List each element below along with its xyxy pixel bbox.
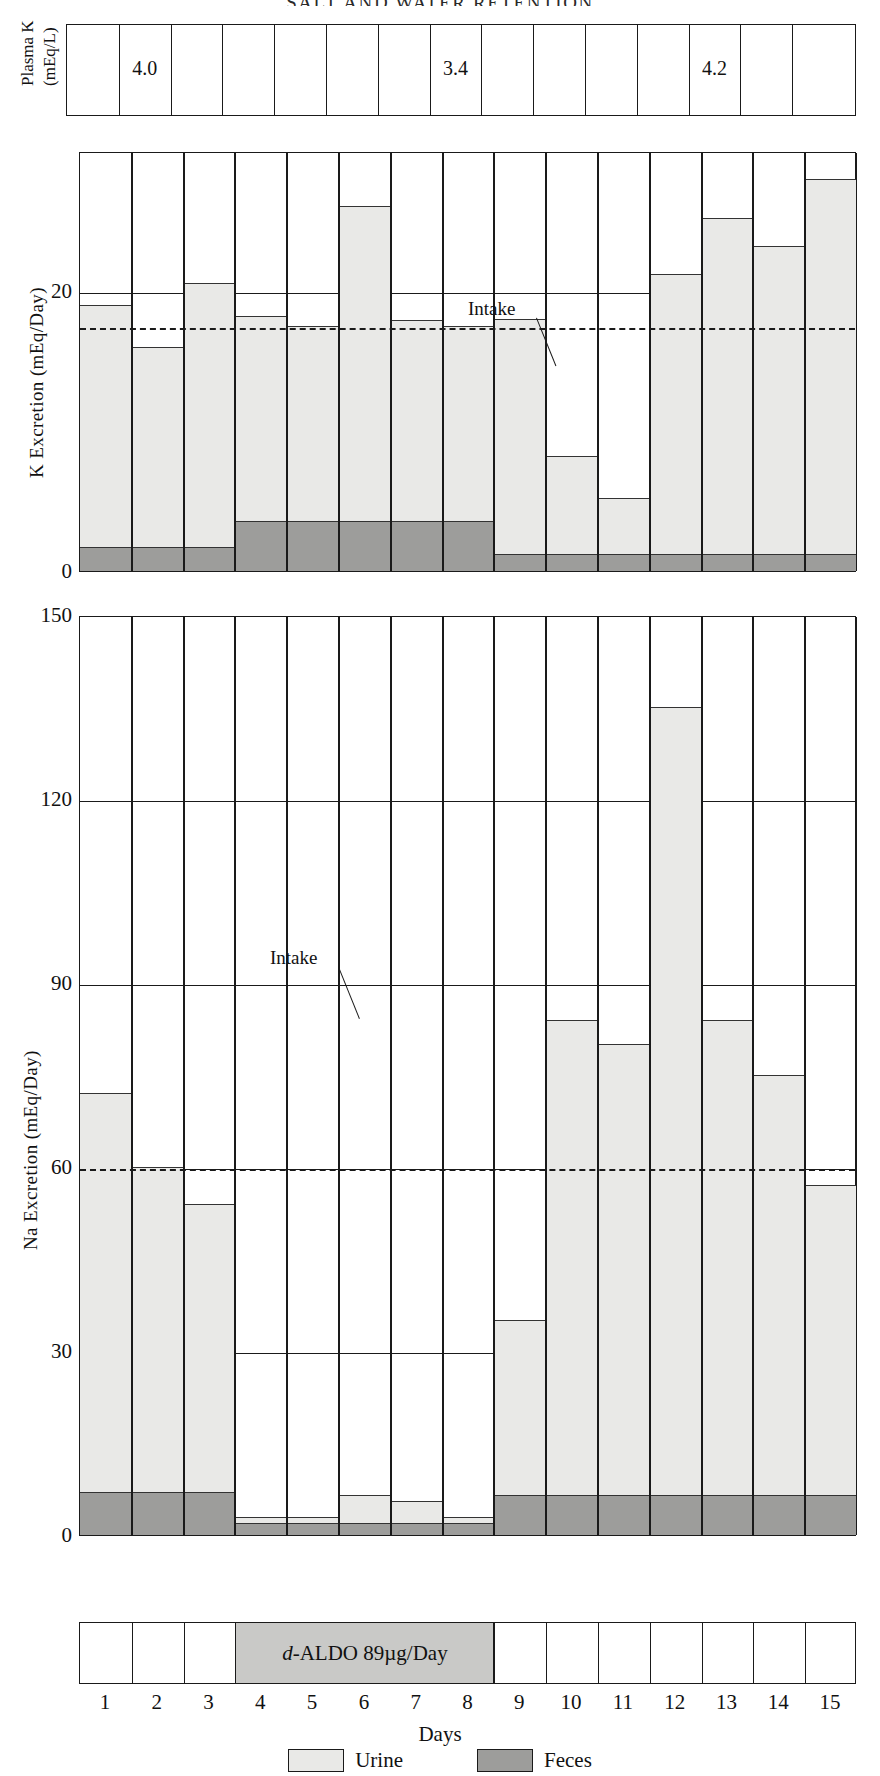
bar-column (753, 153, 805, 571)
y-axis-tick-label: 20 (12, 279, 72, 304)
bar-segment-feces (80, 1492, 131, 1535)
day-separator (753, 1623, 754, 1683)
bar-column (339, 153, 391, 571)
day-axis-label: 4 (234, 1690, 286, 1715)
day-separator (287, 617, 288, 1535)
x-axis-title: Days (0, 1722, 880, 1747)
day-axis-label: 5 (286, 1690, 338, 1715)
y-axis-tick-label: 0 (12, 1523, 72, 1548)
bar-segment-urine (753, 246, 804, 554)
bar-segment-feces (184, 1492, 235, 1535)
bar-segment-feces (235, 521, 286, 571)
day-separator (792, 25, 793, 115)
legend-swatch-urine (288, 1749, 344, 1772)
bar-segment-feces (650, 554, 701, 571)
bar-segment-urine (184, 1204, 235, 1492)
bar-segment-urine (494, 319, 545, 554)
bar-segment-feces (494, 554, 545, 571)
bar-segment-urine (443, 326, 494, 521)
bar-segment-feces (287, 521, 338, 571)
bar-segment-urine (80, 305, 131, 547)
bar-segment-urine (80, 1093, 131, 1492)
day-separator (702, 617, 703, 1535)
day-axis-label: 12 (649, 1690, 701, 1715)
bar-segment-feces (132, 1492, 183, 1535)
day-axis-label: 15 (804, 1690, 856, 1715)
day-separator (650, 1623, 651, 1683)
bar-segment-urine (235, 316, 286, 520)
bar-segment-feces (546, 554, 597, 571)
bar-segment-urine (805, 1185, 856, 1495)
bar-column (805, 153, 857, 571)
bar-column (287, 153, 339, 571)
bar-segment-feces (339, 521, 390, 571)
bar-column (443, 617, 495, 1535)
day-separator (274, 25, 275, 115)
d-aldo-label-rest: -ALDO 89µg/Day (293, 1641, 448, 1665)
day-separator (753, 153, 754, 571)
bar-segment-urine (598, 498, 649, 554)
day-separator (222, 25, 223, 115)
plasma-k-axis-label-line2: (mEq/L) (40, 27, 60, 86)
day-axis-label: 9 (493, 1690, 545, 1715)
day-axis-label: 11 (597, 1690, 649, 1715)
day-separator (494, 153, 495, 571)
y-axis-tick-label: 0 (12, 559, 72, 584)
bar-segment-urine (235, 1517, 286, 1523)
day-separator (702, 1623, 703, 1683)
day-separator (326, 25, 327, 115)
treatment-panel: d-ALDO 89µg/Day (79, 1622, 856, 1684)
bar-column (287, 617, 339, 1535)
bar-column (391, 153, 443, 571)
y-axis-tick-label: 60 (12, 1155, 72, 1180)
day-separator (805, 153, 806, 571)
bar-segment-urine (287, 326, 338, 521)
bar-segment-feces (287, 1523, 338, 1535)
bar-segment-feces (443, 521, 494, 571)
plasma-k-value: 4.2 (689, 57, 741, 80)
k-excretion-axis-label: K Excretion (mEq/Day) (26, 287, 48, 478)
bar-segment-urine (650, 274, 701, 554)
d-aldo-label-italic: d (282, 1641, 293, 1665)
bar-column (494, 617, 546, 1535)
k-excretion-panel: Intake (79, 152, 856, 572)
day-separator (132, 1623, 133, 1683)
bar-segment-feces (598, 1495, 649, 1535)
bar-column (494, 153, 546, 571)
y-axis-tick-label: 90 (12, 971, 72, 996)
day-separator (235, 617, 236, 1535)
day-separator (546, 153, 547, 571)
legend-item-urine: Urine (288, 1748, 403, 1773)
bar-segment-urine (546, 456, 597, 554)
bar-segment-urine (287, 1517, 338, 1523)
day-axis-label: 8 (442, 1690, 494, 1715)
day-separator (378, 25, 379, 115)
intake-annotation-label: Intake (468, 298, 515, 320)
day-separator (184, 153, 185, 571)
bar-column (598, 617, 650, 1535)
day-separator (339, 153, 340, 571)
legend-swatch-feces (477, 1749, 533, 1772)
day-separator (533, 25, 534, 115)
day-separator (132, 617, 133, 1535)
intake-annotation-label: Intake (270, 947, 317, 969)
bar-segment-urine (598, 1044, 649, 1495)
y-axis-tick-label: 150 (12, 603, 72, 628)
y-axis-tick-label: 120 (12, 787, 72, 812)
bar-segment-urine (339, 206, 390, 521)
bar-segment-feces (650, 1495, 701, 1535)
bar-column (391, 617, 443, 1535)
day-axis-label: 14 (752, 1690, 804, 1715)
day-separator (391, 617, 392, 1535)
bar-segment-urine (132, 347, 183, 547)
bar-segment-feces (184, 547, 235, 571)
bar-column (80, 153, 132, 571)
day-separator (443, 617, 444, 1535)
bar-column (235, 153, 287, 571)
legend-label-feces: Feces (544, 1748, 592, 1773)
bar-segment-urine (391, 320, 442, 520)
bar-segment-feces (702, 1495, 753, 1535)
day-axis-label: 7 (390, 1690, 442, 1715)
bar-column (132, 153, 184, 571)
bar-column (184, 617, 236, 1535)
